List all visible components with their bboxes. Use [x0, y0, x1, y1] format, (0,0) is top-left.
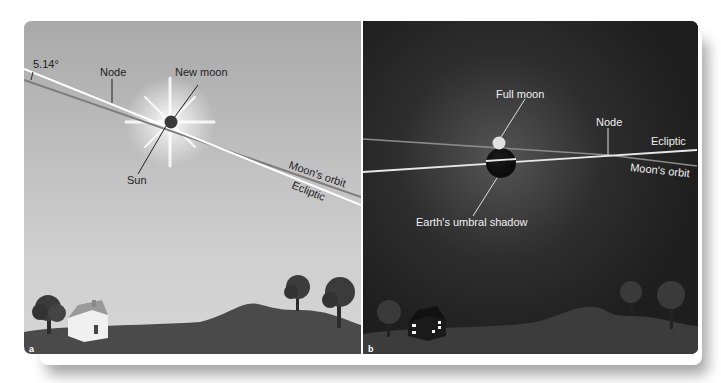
panel-a-solar-eclipse: a 5.14° Node New moon Sun Moon's orbit E…: [24, 21, 361, 354]
full-moon-icon: [493, 137, 506, 150]
eclipse-diagram-figure: a 5.14° Node New moon Sun Moon's orbit E…: [0, 0, 721, 383]
full-moon-label: Full moon: [496, 88, 544, 100]
panel-b-letter: b: [368, 344, 374, 354]
diagram-canvas: a 5.14° Node New moon Sun Moon's orbit E…: [0, 0, 721, 383]
panel-divider: [361, 21, 363, 354]
panel-b-sky: [363, 21, 698, 354]
panel-b-lunar-eclipse: b Full moon Node Ecliptic Moon's orbit E…: [363, 21, 698, 354]
sun-label: Sun: [127, 174, 147, 186]
node-label-b: Node: [596, 116, 622, 128]
umbra-label: Earth's umbral shadow: [416, 216, 528, 228]
node-label-a: Node: [100, 66, 126, 78]
new-moon-label: New moon: [175, 66, 228, 78]
ecliptic-label-b: Ecliptic: [651, 135, 686, 147]
umbra-icon: [486, 148, 516, 178]
angle-label: 5.14°: [33, 58, 59, 70]
new-moon-icon: [165, 116, 178, 129]
